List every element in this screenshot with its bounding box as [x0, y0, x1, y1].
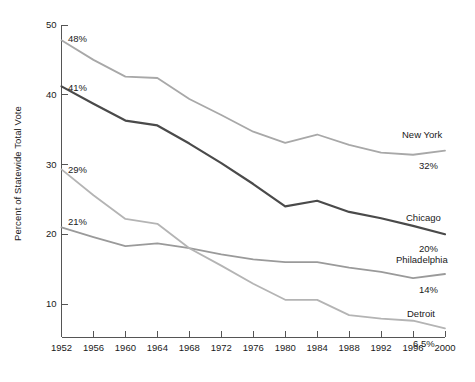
series-lines — [62, 40, 446, 328]
end-value-chicago: 20% — [419, 243, 438, 254]
plot-area — [0, 0, 475, 382]
x-tick-label: 1964 — [140, 342, 174, 353]
x-tick-label: 1960 — [108, 342, 142, 353]
end-value-philadelphia: 14% — [419, 284, 438, 295]
series-label-detroit: Detroit — [407, 308, 435, 319]
end-value-new-york: 32% — [419, 160, 438, 171]
y-tick-label: 10 — [37, 298, 57, 309]
series-line-philadelphia — [62, 227, 446, 278]
x-tick-label: 1976 — [236, 342, 270, 353]
y-tick-label: 50 — [37, 19, 57, 30]
x-tick-label: 1952 — [45, 342, 79, 353]
series-line-new-york — [62, 40, 446, 154]
start-value-new-york: 48% — [68, 33, 87, 44]
series-line-detroit — [62, 169, 446, 328]
x-tick-label: 1972 — [204, 342, 238, 353]
end-value-detroit: 6.5% — [413, 338, 435, 349]
start-value-detroit: 29% — [68, 164, 87, 175]
x-tick-label: 1984 — [300, 342, 334, 353]
x-tick-label: 1992 — [364, 342, 398, 353]
x-tick-label: 1968 — [172, 342, 206, 353]
tick-marks — [62, 25, 446, 337]
start-value-chicago: 41% — [68, 82, 87, 93]
y-tick-label: 30 — [37, 159, 57, 170]
series-line-chicago — [62, 86, 446, 234]
start-value-philadelphia: 21% — [68, 216, 87, 227]
y-tick-label: 20 — [37, 228, 57, 239]
y-tick-label: 40 — [37, 89, 57, 100]
line-chart: Percent of Statewide Total Vote 10203040… — [0, 0, 475, 382]
axis-lines — [62, 25, 446, 337]
x-tick-label: 1980 — [268, 342, 302, 353]
series-label-philadelphia: Philadelphia — [396, 254, 448, 265]
series-label-new-york: New York — [402, 129, 442, 140]
series-label-chicago: Chicago — [406, 212, 441, 223]
x-tick-label: 1956 — [76, 342, 110, 353]
x-tick-label: 1988 — [332, 342, 366, 353]
